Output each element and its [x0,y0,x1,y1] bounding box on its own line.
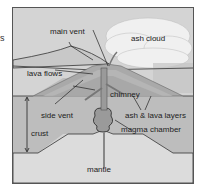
label-chimney: chimney [110,91,140,99]
volcano-diagram: main vent ash cloud lava flows chimney s… [12,7,194,184]
label-ash-lava-layers: ash & lava layers [125,112,186,120]
label-lava-flows: lava flows [27,70,62,78]
label-ash-cloud: ash cloud [131,35,165,43]
label-crust: crust [31,130,48,138]
stray-cropped-text: s [0,33,5,43]
label-side-vent: side vent [41,112,73,120]
volcano-illustration [13,8,193,183]
label-mantle: mantle [87,166,111,174]
label-magma-chamber: magma chamber [121,126,181,134]
ash-cloud-shape [105,18,192,68]
label-main-vent: main vent [50,28,85,36]
